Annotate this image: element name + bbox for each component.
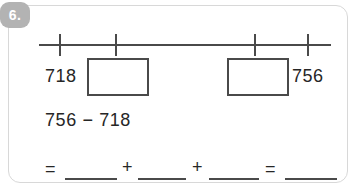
left-value-label: 718 [45, 56, 77, 96]
tick-4 [307, 34, 309, 56]
answer-line: =++= [43, 158, 339, 186]
tick-2 [115, 34, 117, 56]
number-line [39, 34, 331, 56]
question-number-badge: 6. [0, 2, 30, 28]
tick-1 [59, 34, 61, 56]
right-value-label: 756 [292, 56, 324, 96]
worksheet-card: 718 756 756 − 718 =++= [8, 5, 348, 183]
number-line-axis [39, 44, 331, 46]
answer-box-right[interactable] [227, 58, 289, 96]
answer-box-left[interactable] [87, 58, 149, 96]
values-row: 718 756 [9, 56, 339, 100]
answer-blank-1[interactable] [65, 178, 117, 180]
plus-sign-1: + [122, 156, 133, 178]
answer-blank-3[interactable] [209, 178, 259, 180]
equals-sign-2: = [265, 158, 276, 180]
subtraction-expression: 756 − 718 [45, 110, 131, 131]
tick-3 [254, 34, 256, 56]
answer-blank-2[interactable] [138, 178, 186, 180]
equals-sign-1: = [45, 158, 56, 180]
plus-sign-2: + [192, 156, 203, 178]
answer-blank-4[interactable] [285, 178, 337, 180]
